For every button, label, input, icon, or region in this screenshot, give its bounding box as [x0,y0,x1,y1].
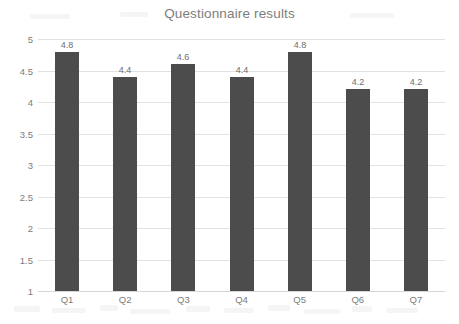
bar-group[interactable]: 4.4 [113,39,137,291]
y-axis-tick-label: 3 [0,160,33,171]
chart-title: Questionnaire results [0,6,459,21]
bar-value-label: 4.4 [236,65,249,75]
bar-value-label: 4.8 [294,40,307,50]
bar-value-label: 4.6 [177,52,190,62]
x-axis-tick-label: Q2 [105,294,145,305]
y-axis: 54.543.532.521.51 [0,39,33,291]
plot-area: 4.84.44.64.44.84.24.2 [38,39,445,291]
bar[interactable] [113,77,137,291]
x-axis-tick-label: Q6 [338,294,378,305]
bar-value-label: 4.8 [61,40,74,50]
gridline [38,291,445,292]
bar-value-label: 4.2 [352,77,365,87]
bar-chart-figure: Questionnaire results 54.543.532.521.51 … [0,0,459,324]
bar[interactable] [288,52,312,291]
y-axis-tick-label: 2 [0,223,33,234]
bar-group[interactable]: 4.2 [346,39,370,291]
y-axis-tick-label: 5 [0,34,33,45]
y-axis-tick-label: 1.5 [0,254,33,265]
y-axis-tick-label: 4 [0,97,33,108]
bar-group[interactable]: 4.8 [288,39,312,291]
x-axis-tick-label: Q7 [396,294,436,305]
x-axis-tick-label: Q4 [222,294,262,305]
bar[interactable] [346,89,370,291]
x-axis-tick-label: Q1 [47,294,87,305]
y-axis-tick-label: 2.5 [0,191,33,202]
x-axis-tick-label: Q3 [163,294,203,305]
bar-group[interactable]: 4.8 [55,39,79,291]
bar-value-label: 4.2 [410,77,423,87]
bar-group[interactable]: 4.6 [171,39,195,291]
bar[interactable] [230,77,254,291]
x-axis: Q1Q2Q3Q4Q5Q6Q7 [38,294,445,312]
bar-value-label: 4.4 [119,65,132,75]
y-axis-tick-label: 4.5 [0,65,33,76]
bar[interactable] [55,52,79,291]
bar-group[interactable]: 4.2 [404,39,428,291]
y-axis-tick-label: 1 [0,286,33,297]
bar[interactable] [171,64,195,291]
y-axis-tick-label: 3.5 [0,128,33,139]
bar-group[interactable]: 4.4 [230,39,254,291]
x-axis-tick-label: Q5 [280,294,320,305]
bar[interactable] [404,89,428,291]
